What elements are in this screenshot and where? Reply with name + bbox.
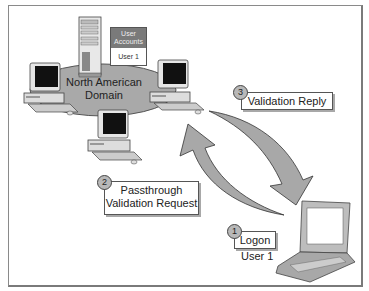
step-1-number-badge: 1	[227, 224, 242, 239]
laptop-icon	[276, 201, 355, 282]
step-2-label-line2: Validation Request	[105, 197, 198, 210]
user-accounts-entry: User 1	[111, 48, 146, 65]
desktop-computer-icon	[150, 60, 204, 114]
user-accounts-header: User Accounts	[111, 28, 146, 48]
diagram-artwork	[0, 0, 369, 291]
user-accounts-header-line2: Accounts	[111, 38, 146, 46]
step-2-number-badge: 2	[97, 175, 112, 190]
user-accounts-table: User Accounts User 1	[110, 27, 147, 66]
step-1-label: Logon	[240, 234, 271, 246]
step-2-label-line1: Passthrough	[105, 184, 198, 197]
step-3-number-badge: 3	[233, 85, 248, 100]
step-3-label: Validation Reply	[248, 95, 327, 107]
step-1-sublabel: User 1	[241, 250, 273, 262]
step-2-callout: Passthrough Validation Request	[104, 181, 199, 215]
user-accounts-header-line1: User	[111, 30, 146, 38]
step-3-callout: Validation Reply	[241, 92, 333, 110]
desktop-computer-icon	[88, 110, 142, 164]
domain-label-line1: North American	[60, 76, 148, 89]
domain-label-line2: Domain	[60, 89, 148, 102]
server-tower-icon	[79, 17, 101, 77]
domain-label: North American Domain	[60, 76, 148, 102]
